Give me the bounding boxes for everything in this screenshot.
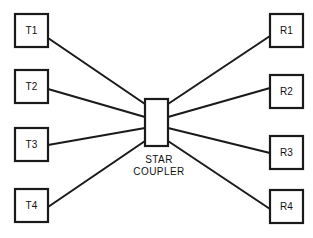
receiver-label-r3: R3	[280, 147, 293, 158]
transmitter-label-t3: T3	[25, 139, 37, 150]
coupler-group: STAR COUPLER	[133, 99, 185, 177]
transmitter-label-t4: T4	[25, 200, 37, 211]
star-coupler-label-line1: STAR	[145, 154, 173, 165]
transmitter-label-t2: T2	[25, 81, 37, 92]
transmitter-label-t1: T1	[25, 25, 37, 36]
link-t3-to-coupler	[48, 128, 145, 145]
transmitter-node-t3[interactable]: T3	[15, 128, 48, 161]
receiver-label-r2: R2	[280, 86, 293, 97]
transmitter-node-t1[interactable]: T1	[15, 14, 48, 47]
receiver-label-r4: R4	[280, 201, 293, 212]
transmitter-node-t4[interactable]: T4	[15, 189, 48, 222]
star-coupler-label-line2: COUPLER	[133, 166, 185, 177]
link-t4-to-coupler	[48, 141, 145, 207]
receiver-node-r3[interactable]: R3	[270, 136, 303, 169]
star-coupler-diagram: T1T2T3T4R1R2R3R4 STAR COUPLER	[0, 0, 313, 238]
diagram-canvas: T1T2T3T4R1R2R3R4 STAR COUPLER	[0, 0, 313, 238]
link-coupler-to-r1	[168, 36, 270, 104]
receiver-node-r2[interactable]: R2	[270, 75, 303, 108]
receiver-node-r1[interactable]: R1	[270, 14, 303, 47]
receiver-label-r1: R1	[280, 25, 293, 36]
link-coupler-to-r2	[168, 88, 270, 117]
star-coupler-box[interactable]	[145, 99, 168, 146]
receiver-node-r4[interactable]: R4	[270, 190, 303, 223]
transmitter-node-t2[interactable]: T2	[15, 70, 48, 103]
link-coupler-to-r3	[168, 128, 270, 153]
